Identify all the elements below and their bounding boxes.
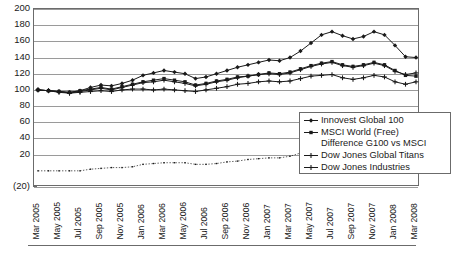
data-point-none	[174, 162, 175, 163]
y-axis-tick-label: 60	[0, 116, 30, 126]
data-point-none	[132, 166, 133, 167]
data-point-none	[258, 158, 259, 159]
legend-item[interactable]: Difference G100 vs MSCI	[303, 138, 447, 150]
y-axis-tick-label: 100	[0, 84, 30, 94]
legend-item-label: Difference G100 vs MSCI	[320, 139, 426, 148]
data-point-none	[142, 164, 143, 165]
data-point-diamond	[214, 72, 218, 76]
data-point-asterisk	[214, 86, 219, 91]
data-point-asterisk	[414, 79, 419, 84]
x-axis-tick-label: Mar 2007	[284, 204, 293, 240]
data-point-none	[289, 156, 290, 157]
x-axis-tick-label: Jul 2007	[326, 208, 335, 241]
data-point-diamond	[372, 29, 376, 33]
data-point-asterisk	[309, 165, 314, 170]
data-point-diamond	[267, 58, 271, 62]
data-point-asterisk	[141, 87, 146, 92]
data-point-asterisk	[298, 76, 303, 81]
data-point-none	[111, 167, 112, 168]
data-point-asterisk	[288, 79, 293, 84]
data-point-diamond	[141, 73, 145, 77]
data-point-square	[309, 131, 312, 134]
data-point-asterisk	[204, 88, 209, 93]
data-point-diamond	[351, 37, 355, 41]
data-point-asterisk	[361, 75, 366, 80]
y-axis-tick-label: 140	[0, 52, 30, 62]
data-point-asterisk	[256, 79, 261, 84]
data-point-asterisk	[193, 89, 198, 94]
data-point-diamond	[309, 119, 313, 123]
data-point-asterisk	[172, 88, 177, 93]
y-axis-tick-label: 20	[0, 149, 30, 159]
data-point-asterisk	[309, 74, 314, 79]
data-point-none	[58, 170, 59, 171]
data-point-diamond	[172, 70, 176, 74]
legend-marker-icon	[303, 162, 320, 173]
data-point-none	[184, 162, 185, 163]
data-point-none	[279, 157, 280, 158]
legend-item[interactable]: Dow Jones Global Titans	[303, 150, 447, 162]
y-axis-tick-label: 180	[0, 19, 30, 29]
data-point-none	[121, 167, 122, 168]
data-point-none	[153, 163, 154, 164]
x-axis-tick-label: Nov 2005	[116, 203, 125, 240]
x-axis-tick-label: Jan 2008	[389, 205, 398, 240]
x-axis-tick-label: Nov 2007	[368, 203, 377, 240]
y-axis-tick-label: 160	[0, 35, 30, 45]
data-point-asterisk	[225, 84, 230, 89]
data-point-asterisk	[403, 82, 408, 87]
data-point-none	[69, 170, 70, 171]
y-axis-tick-label: 120	[0, 68, 30, 78]
x-axis-tick-label: Sep 2005	[95, 203, 104, 240]
x-axis-tick-label: Jan 2006	[137, 205, 146, 240]
legend-item[interactable]: Innovest Global 100	[303, 115, 447, 127]
data-point-diamond	[225, 68, 229, 72]
data-point-asterisk	[277, 79, 282, 84]
data-point-asterisk	[340, 75, 345, 80]
y-axis-tick-label: 200	[0, 3, 30, 13]
data-point-diamond	[162, 68, 166, 72]
legend-item[interactable]: MSCI World (Free)	[303, 127, 447, 139]
chart-legend[interactable]: Innovest Global 100MSCI World (Free)Diff…	[299, 112, 451, 174]
data-point-none	[268, 157, 269, 158]
data-point-diamond	[183, 72, 187, 76]
series-line	[38, 75, 416, 94]
bottom-divider	[28, 245, 416, 246]
legend-item-label: Dow Jones Industries	[320, 163, 410, 172]
x-axis-tick-label: Mar 2006	[158, 204, 167, 240]
data-point-none	[226, 161, 227, 162]
data-point-asterisk	[382, 75, 387, 80]
data-point-diamond	[288, 55, 292, 59]
x-axis-tick-label: Sep 2007	[347, 203, 356, 240]
data-point-none	[205, 164, 206, 165]
data-point-none	[247, 159, 248, 160]
x-axis-tick-label: Mar 2008	[410, 204, 419, 240]
data-point-asterisk	[330, 72, 335, 77]
data-point-diamond	[193, 76, 197, 80]
data-point-diamond	[256, 60, 260, 64]
data-point-asterisk	[393, 79, 398, 84]
data-point-asterisk	[183, 88, 188, 93]
legend-marker-icon	[303, 150, 320, 161]
x-axis-tick-label: Mar 2005	[32, 204, 41, 240]
x-axis-tick-label: Nov 2006	[242, 203, 251, 240]
x-axis-tick-label: May 2005	[53, 202, 62, 240]
data-point-diamond	[277, 59, 281, 63]
data-point-asterisk	[151, 88, 156, 93]
data-point-none	[37, 170, 38, 171]
y-axis-tick-label: 80	[0, 100, 30, 110]
x-axis-tick-label: May 2006	[179, 202, 188, 240]
data-point-diamond	[361, 34, 365, 38]
data-point-diamond	[130, 78, 134, 82]
series-line	[38, 32, 416, 93]
data-point-asterisk	[246, 81, 251, 86]
data-point-none	[90, 169, 91, 170]
data-point-diamond	[330, 29, 334, 33]
series-4	[36, 72, 419, 95]
data-point-none	[163, 162, 164, 163]
legend-item[interactable]: Dow Jones Industries	[303, 161, 447, 173]
data-point-diamond	[246, 63, 250, 67]
y-axis-tick-label: 40	[0, 132, 30, 142]
legend-item-label: Dow Jones Global Titans	[320, 151, 424, 160]
x-axis-tick-label: Jan 2007	[263, 205, 272, 240]
